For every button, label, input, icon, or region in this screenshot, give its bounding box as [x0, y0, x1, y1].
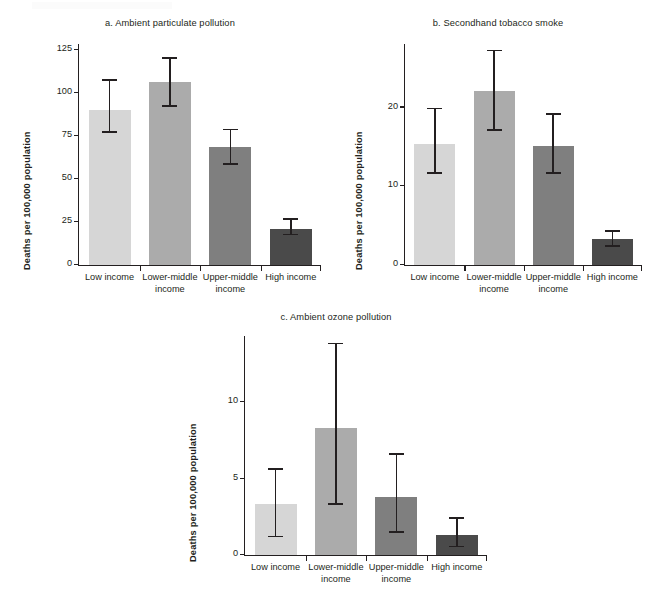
panel-c-y-tick-mark — [240, 478, 244, 479]
panel-c-error-cap-upper — [328, 343, 343, 345]
panel-b-y-tick-mark — [400, 185, 404, 186]
panel-a-plot-area: 0255075100125Low incomeLower-middle inco… — [78, 44, 321, 266]
panel-c-x-tick-mark — [366, 556, 367, 561]
panel-a-x-tick-mark — [261, 266, 262, 271]
panel-b-error-bar — [612, 231, 614, 246]
panel-b-error-bar — [493, 50, 495, 130]
panel-c-error-bar — [396, 454, 398, 532]
panel-a-bar — [149, 82, 191, 265]
panel-c-title: c. Ambient ozone pollution — [166, 312, 506, 322]
panel-a-y-tick-mark — [74, 264, 78, 265]
panel-c-y-tick-label: 0 — [233, 548, 238, 558]
panel-b-y-axis-title: Deaths per 100,000 population — [354, 131, 364, 270]
panel-b-y-tick-label: 10 — [388, 179, 398, 189]
panel-a-error-cap-lower — [102, 131, 117, 133]
page-top-artifact — [32, 2, 172, 9]
panel-c-y-axis-title: Deaths per 100,000 population — [188, 423, 198, 562]
panel-c-error-bar — [456, 518, 458, 546]
panel-a-y-tick-label: 125 — [57, 43, 72, 53]
panel-c-error-cap-upper — [268, 468, 283, 470]
panel-b-x-tick-mark — [524, 266, 525, 271]
panel-b-error-cap-lower — [546, 172, 561, 174]
panel-a-bar — [89, 110, 131, 265]
panel-c-error-cap-lower — [268, 536, 283, 538]
panel-b-error-bar — [434, 109, 436, 174]
panel-c-error-cap-upper — [389, 453, 404, 455]
panel-a-y-tick-mark — [74, 221, 78, 222]
panel-a-error-cap-lower — [223, 163, 238, 165]
panel-b-error-cap-upper — [605, 230, 620, 232]
panel-a-x-axis-end-tick — [320, 266, 321, 271]
panel-c-error-cap-lower — [328, 503, 343, 505]
panel-a-error-bar — [109, 80, 111, 132]
panel-b-y-tick-mark — [400, 264, 404, 265]
panel-b-error-cap-lower — [487, 129, 502, 131]
panel-a-error-bar — [169, 58, 171, 106]
figure-bar-chart-panels: a. Ambient particulate pollution Deaths … — [0, 0, 664, 602]
panel-a-x-tick-mark — [140, 266, 141, 271]
panel-b-x-category-label: High income — [577, 272, 648, 284]
panel-b-x-tick-mark — [583, 266, 584, 271]
panel-a-error-cap-lower — [162, 105, 177, 107]
panel-a-y-tick-label: 100 — [57, 86, 72, 96]
panel-ambient-particulate-pollution: a. Ambient particulate pollution Deaths … — [0, 18, 340, 310]
panel-a-error-cap-upper — [223, 129, 238, 131]
panel-c-x-axis-end-tick — [486, 556, 487, 561]
panel-b-y-axis-line — [404, 44, 405, 266]
panel-b-y-tick-label: 0 — [393, 258, 398, 268]
panel-c-x-tick-mark — [427, 556, 428, 561]
panel-c-error-cap-upper — [449, 517, 464, 519]
panel-c-error-bar — [275, 469, 277, 536]
panel-a-y-axis-line — [78, 44, 79, 266]
panel-a-error-cap-lower — [283, 234, 298, 236]
panel-a-error-bar — [290, 219, 292, 235]
panel-c-y-tick-label: 10 — [228, 395, 238, 405]
panel-c-y-tick-mark — [240, 401, 244, 402]
panel-a-y-tick-mark — [74, 92, 78, 93]
panel-a-title: a. Ambient particulate pollution — [0, 18, 340, 28]
panel-a-y-axis-title: Deaths per 100,000 population — [22, 131, 32, 270]
panel-a-error-bar — [230, 129, 232, 163]
panel-a-error-cap-upper — [102, 79, 117, 81]
panel-c-y-tick-mark — [240, 554, 244, 555]
panel-c-plot-area: 0510Low incomeLower-middle incomeUpper-m… — [244, 336, 487, 556]
panel-c-x-tick-mark — [306, 556, 307, 561]
panel-a-y-tick-label: 50 — [62, 172, 72, 182]
panel-c-error-cap-lower — [389, 531, 404, 533]
panel-a-y-tick-mark — [74, 49, 78, 50]
panel-a-error-cap-upper — [283, 218, 298, 220]
panel-a-y-tick-mark — [74, 178, 78, 179]
panel-ambient-ozone-pollution: c. Ambient ozone pollution Deaths per 10… — [166, 312, 506, 602]
panel-b-x-tick-mark — [464, 266, 465, 271]
panel-b-plot-area: 01020Low incomeLower-middle incomeUpper-… — [404, 44, 642, 266]
panel-a-y-tick-label: 25 — [62, 215, 72, 225]
panel-a-error-cap-upper — [162, 57, 177, 59]
panel-b-error-cap-upper — [427, 108, 442, 110]
panel-b-error-cap-lower — [605, 245, 620, 247]
panel-a-y-tick-label: 75 — [62, 129, 72, 139]
panel-b-title: b. Secondhand tobacco smoke — [332, 18, 664, 28]
panel-b-y-tick-mark — [400, 106, 404, 107]
panel-c-error-bar — [335, 344, 337, 505]
panel-c-y-tick-label: 5 — [233, 472, 238, 482]
panel-a-x-tick-mark — [200, 266, 201, 271]
panel-b-error-cap-upper — [487, 50, 502, 52]
panel-a-x-category-label: High income — [255, 272, 327, 284]
panel-secondhand-tobacco-smoke: b. Secondhand tobacco smoke Deaths per 1… — [332, 18, 664, 310]
panel-b-x-axis-end-tick — [641, 266, 642, 271]
panel-b-error-cap-lower — [427, 172, 442, 174]
panel-b-error-bar — [552, 114, 554, 173]
panel-c-y-axis-line — [244, 336, 245, 556]
panel-b-y-tick-label: 20 — [388, 101, 398, 111]
panel-a-y-tick-label: 0 — [67, 258, 72, 268]
panel-a-y-tick-mark — [74, 135, 78, 136]
panel-c-x-category-label: High income — [421, 562, 493, 574]
panel-c-error-cap-lower — [449, 546, 464, 548]
panel-b-error-cap-upper — [546, 113, 561, 115]
